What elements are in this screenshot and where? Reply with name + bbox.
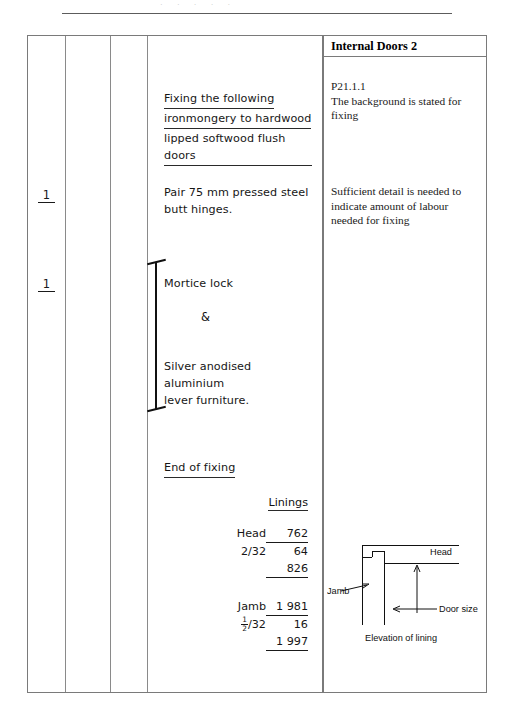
diagram-label-head: Head [430,547,452,557]
item-line: Pair 75 mm pressed steel [164,184,312,201]
page-header-ghost-text: · · · · · [160,0,360,8]
timesing-column: 1 1 [28,36,65,692]
squaring-column [110,36,147,692]
note-line: Sufficient detail is needed to [331,184,480,199]
build-up-group-jamb: Jamb 1 981 12/32 16 1 997 [238,598,308,651]
build-up-label [238,633,266,651]
note-line: needed for fixing [331,213,480,228]
description-heading-fixing: Fixing the following ironmongery to hard… [147,90,322,167]
fraction-one-half: 12 [241,616,248,632]
heading-line: ironmongery to hardwood [164,110,311,129]
dimensions-column [65,36,110,692]
build-up-row: Jamb 1 981 [238,598,308,615]
description-column: Fixing the following ironmongery to hard… [147,36,322,692]
build-up-row: 1 997 [238,633,308,651]
heading-line: Fixing the following [164,90,274,109]
timesing-entry: 1 [28,188,65,203]
build-up-label [237,560,266,578]
build-up-value: 64 [266,542,308,560]
fraction-suffix: /32 [248,618,266,631]
build-up-label: 2/32 [237,542,266,560]
ampersand-symbol: & [147,310,322,324]
elevation-of-lining-diagram: Head Jamb Door size Elevation of lining [327,533,485,653]
dimension-paper-grid: 1 1 Fixing the following ironmongery to … [27,35,323,693]
diagram-caption: Elevation of lining [365,633,437,643]
build-up-label-fraction: 12/32 [238,615,266,633]
commentary-note-p21: P21.1.1 The background is stated for fix… [331,79,480,123]
build-up-row: 2/32 64 [237,542,308,560]
item-line: Mortice lock [164,275,312,292]
build-up-value: 1 981 [266,598,308,615]
description-item-lever-furniture: Silver anodised aluminium lever furnitur… [147,358,322,409]
note-line: fixing [331,108,480,123]
build-up-title: Linings [268,496,308,511]
build-up-group-head: Head 762 2/32 64 826 [237,525,308,578]
build-up-table: Head 762 2/32 64 826 [237,525,308,578]
diagram-label-jamb: Jamb [327,586,349,596]
build-up-total: 1 997 [266,633,308,651]
build-up-row: Head 762 [237,525,308,542]
build-up-label: Head [237,525,266,542]
note-line: indicate amount of labour [331,199,480,214]
timesing-entry: 1 [28,277,65,292]
build-up-total: 826 [266,560,308,578]
item-line: Silver anodised aluminium [164,358,312,392]
note-line: The background is stated for [331,94,480,109]
build-up-value: 16 [266,615,308,633]
diagram-label-door-size: Door size [439,604,478,614]
heading-line: lipped softwood flush doors [164,130,312,166]
commentary-title: Internal Doors 2 [324,36,486,57]
item-line: End of fixing [164,459,235,478]
commentary-panel: Internal Doors 2 P21.1.1 The background … [323,35,487,693]
build-up-row: 12/32 16 [238,615,308,633]
commentary-note-detail: Sufficient detail is needed to indicate … [331,184,480,228]
timesing-value: 1 [38,278,55,292]
build-up-table: Jamb 1 981 12/32 16 1 997 [238,598,308,651]
description-item-hinges: Pair 75 mm pressed steel butt hinges. [147,184,322,218]
description-end-of-fixing: End of fixing [147,459,322,479]
item-line: butt hinges. [164,201,312,218]
build-up-label: Jamb [238,598,266,615]
build-up-row: 826 [237,560,308,578]
item-line: lever furniture. [164,392,312,409]
note-line: P21.1.1 [331,79,480,94]
build-up-value: 762 [266,525,308,542]
page-header-rule [62,13,452,14]
description-item-mortice-lock: Mortice lock [147,275,322,292]
timesing-value: 1 [38,189,55,203]
